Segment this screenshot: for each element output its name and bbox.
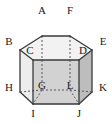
hexagonal-prism-figure: A F B E C D G L H K I J xyxy=(0,0,112,124)
vertex-label-b: B xyxy=(3,36,15,47)
prism-drawing xyxy=(0,0,112,124)
vertex-label-f: F xyxy=(64,5,76,16)
vertex-label-h: H xyxy=(3,82,15,93)
vertex-label-a: A xyxy=(36,5,48,16)
vertex-label-i: I xyxy=(27,108,39,119)
vertex-label-k: K xyxy=(97,82,109,93)
vertex-label-j: J xyxy=(73,108,85,119)
vertex-label-g: G xyxy=(36,80,48,91)
vertex-label-c: C xyxy=(24,45,36,56)
vertex-label-l: L xyxy=(64,80,76,91)
vertex-label-e: E xyxy=(97,36,109,47)
vertex-label-d: D xyxy=(77,45,89,56)
